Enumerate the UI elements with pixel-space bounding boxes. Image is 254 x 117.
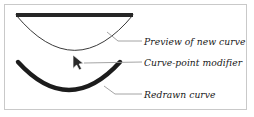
figure-container: Preview of new curve Curve-point modifie… [0, 0, 254, 117]
leader-line-preview-icon [107, 32, 142, 41]
cursor-arrow-icon[interactable] [73, 55, 83, 70]
annotation-label-preview: Preview of new curve [144, 37, 245, 47]
annotation-label-modifier: Curve-point modifier [144, 58, 242, 68]
leader-line-modifier-icon [84, 62, 142, 63]
preview-new-curve-path [16, 15, 133, 51]
redrawn-curve-path [18, 62, 120, 90]
annotation-label-redrawn: Redrawn curve [144, 90, 216, 100]
leader-line-redrawn-icon [104, 86, 142, 94]
